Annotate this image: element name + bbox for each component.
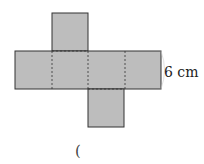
answer-paren: (	[75, 142, 81, 160]
dimension-label: 6 cm	[164, 64, 198, 80]
face-top	[52, 13, 88, 51]
cube-net-diagram	[0, 0, 204, 164]
face-bottom	[88, 89, 124, 127]
